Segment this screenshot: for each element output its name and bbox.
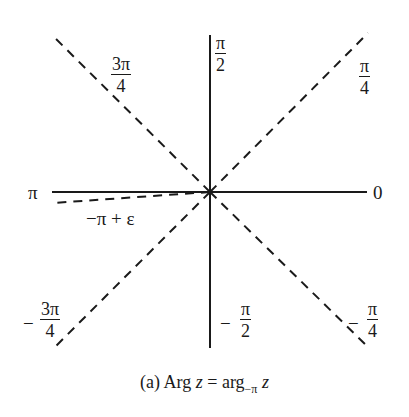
ray-pi-quarter bbox=[210, 33, 368, 192]
label-neg-pi-quarter: π 4 bbox=[367, 300, 378, 340]
ray-neg-pi-quarter bbox=[210, 192, 368, 347]
label-three-pi-quarter-num: 3π bbox=[111, 55, 131, 75]
label-pi-quarter-num: π bbox=[359, 57, 370, 77]
label-pi-half-den: 2 bbox=[216, 54, 225, 74]
label-neg-three-pi-quarter-num: 3π bbox=[40, 300, 60, 320]
label-neg-pi-plus-epsilon: −π + ε bbox=[86, 209, 135, 228]
label-neg-pi-half-num: π bbox=[240, 300, 251, 320]
label-neg-three-pi-quarter: 3π 4 bbox=[40, 300, 60, 340]
caption-var-z: z bbox=[196, 372, 203, 392]
label-pi: π bbox=[28, 183, 38, 202]
label-pi-half-num: π bbox=[215, 34, 226, 54]
ray-neg-pi-plus-epsilon bbox=[53, 192, 210, 203]
label-three-pi-quarter: 3π 4 bbox=[111, 55, 131, 95]
label-neg-pi-half: π 2 bbox=[240, 300, 251, 340]
label-neg-pi-half-den: 2 bbox=[241, 320, 250, 340]
label-neg-pi-quarter-sign: − bbox=[348, 314, 359, 333]
caption-equals: = arg bbox=[203, 372, 245, 392]
label-neg-pi-quarter-den: 4 bbox=[368, 320, 377, 340]
label-pi-half: π 2 bbox=[215, 34, 226, 74]
label-neg-pi-half-sign: − bbox=[220, 314, 231, 333]
caption-subscript: −π bbox=[245, 382, 258, 396]
caption-var-z2: z bbox=[262, 372, 269, 392]
label-neg-three-pi-quarter-sign: − bbox=[23, 314, 34, 333]
label-neg-three-pi-quarter-den: 4 bbox=[46, 320, 55, 340]
argument-diagram bbox=[0, 0, 409, 417]
label-three-pi-quarter-den: 4 bbox=[117, 75, 126, 95]
label-neg-pi-quarter-num: π bbox=[367, 300, 378, 320]
caption-prefix: (a) Arg bbox=[140, 372, 196, 392]
figure-caption: (a) Arg z = arg−π z bbox=[0, 372, 409, 397]
label-zero: 0 bbox=[373, 183, 383, 202]
label-pi-quarter-den: 4 bbox=[360, 77, 369, 97]
label-pi-quarter: π 4 bbox=[359, 57, 370, 97]
